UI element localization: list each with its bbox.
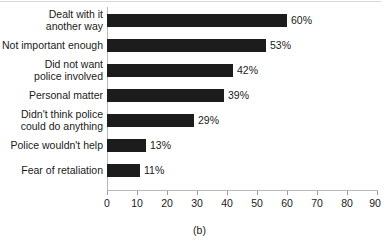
figure-caption-text: (b) [193, 224, 206, 236]
value-label-didnt-think-police-could-do-anything: 29% [198, 114, 219, 127]
category-label-police-wouldnt-help: Police wouldn't help [0, 140, 103, 152]
x-tick-label-40: 40 [212, 197, 242, 209]
x-tick-10 [137, 191, 138, 195]
bar-fear-of-retaliation [107, 164, 140, 177]
x-tick-20 [167, 191, 168, 195]
x-tick-30 [197, 191, 198, 195]
category-label-did-not-want-police-involved: Did not want police involved [0, 59, 103, 82]
bar-not-important-enough [107, 39, 266, 52]
value-label-not-important-enough: 53% [270, 39, 291, 52]
x-tick-label-0: 0 [92, 197, 122, 209]
value-label-personal-matter: 39% [228, 89, 249, 102]
x-tick-50 [257, 191, 258, 195]
bar-police-wouldnt-help [107, 139, 146, 152]
x-tick-label-60: 60 [272, 197, 302, 209]
x-tick-label-50: 50 [242, 197, 272, 209]
bar-dealt-with-it-another-way [107, 14, 287, 27]
x-tick-label-20: 20 [152, 197, 182, 209]
category-label-fear-of-retaliation: Fear of retaliation [0, 165, 103, 177]
x-axis-line [107, 190, 378, 191]
x-tick-label-80: 80 [332, 197, 362, 209]
x-tick-40 [227, 191, 228, 195]
x-tick-70 [317, 191, 318, 195]
category-label-personal-matter: Personal matter [0, 90, 103, 102]
plot-area: Dealt with it another way Not important … [0, 0, 381, 190]
x-tick-60 [287, 191, 288, 195]
bar-did-not-want-police-involved [107, 64, 233, 77]
x-tick-label-90: 90 [360, 197, 386, 209]
x-tick-0 [107, 191, 108, 195]
x-tick-label-70: 70 [302, 197, 332, 209]
figure-caption: (b) [0, 224, 381, 236]
category-label-didnt-think-police-could-do-anything: Didn't think police could do anything [0, 109, 103, 132]
bar-personal-matter [107, 89, 224, 102]
category-label-not-important-enough: Not important enough [0, 40, 103, 52]
category-label-dealt-with-it-another-way: Dealt with it another way [0, 9, 103, 32]
bar-didnt-think-police-could-do-anything [107, 114, 194, 127]
x-tick-label-10: 10 [122, 197, 152, 209]
value-label-police-wouldnt-help: 13% [150, 139, 171, 152]
value-label-did-not-want-police-involved: 42% [237, 64, 258, 77]
x-tick-80 [347, 191, 348, 195]
x-tick-label-30: 30 [182, 197, 212, 209]
value-label-dealt-with-it-another-way: 60% [291, 14, 312, 27]
x-tick-90 [377, 191, 378, 195]
value-label-fear-of-retaliation: 11% [144, 164, 164, 177]
